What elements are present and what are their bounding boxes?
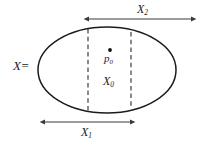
label-p0: p0: [104, 53, 113, 64]
equals-sign-text: =: [21, 58, 29, 73]
figure-container: X= X2 X1 X0 p0: [0, 0, 204, 141]
label-x1: X1: [81, 126, 92, 138]
label-x1-subscript: 1: [88, 131, 92, 140]
label-p0-base: p: [104, 52, 110, 64]
label-x0: X0: [103, 75, 114, 87]
set-diagram-svg: [0, 0, 204, 141]
label-x2-subscript: 2: [144, 8, 148, 17]
set-equals-label: X=: [13, 59, 29, 72]
label-p0-subscript: 0: [110, 58, 113, 65]
label-x2: X2: [137, 3, 148, 15]
region-ellipse-outline: [38, 27, 176, 113]
label-x0-subscript: 0: [110, 80, 114, 89]
